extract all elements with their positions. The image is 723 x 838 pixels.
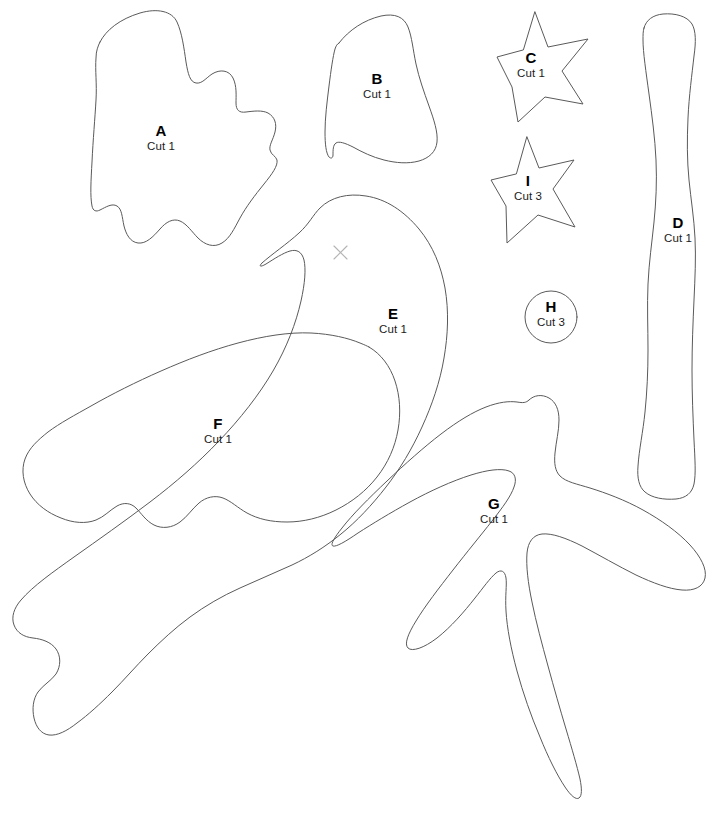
piece-cut-i: Cut 3 bbox=[514, 189, 542, 203]
piece-letter-e: E bbox=[379, 305, 407, 322]
piece-cut-d: Cut 1 bbox=[664, 231, 692, 245]
piece-outline-g bbox=[332, 396, 705, 799]
piece-letter-c: C bbox=[517, 49, 545, 66]
piece-label-d: D Cut 1 bbox=[664, 214, 692, 245]
piece-letter-b: B bbox=[363, 70, 391, 87]
piece-letter-i: I bbox=[514, 172, 542, 189]
piece-label-i: I Cut 3 bbox=[514, 172, 542, 203]
piece-letter-a: A bbox=[147, 122, 175, 139]
piece-cut-c: Cut 1 bbox=[517, 66, 545, 80]
piece-label-b: B Cut 1 bbox=[363, 70, 391, 101]
piece-letter-d: D bbox=[664, 214, 692, 231]
piece-letter-h: H bbox=[537, 298, 565, 315]
piece-cut-a: Cut 1 bbox=[147, 139, 175, 153]
piece-label-e: E Cut 1 bbox=[379, 305, 407, 336]
piece-letter-g: G bbox=[480, 495, 508, 512]
piece-cut-h: Cut 3 bbox=[537, 315, 565, 329]
piece-cut-f: Cut 1 bbox=[204, 432, 232, 446]
x-mark-icon bbox=[334, 246, 347, 259]
piece-label-c: C Cut 1 bbox=[517, 49, 545, 80]
pattern-sheet: A Cut 1 B Cut 1 C Cut 1 D Cut 1 E Cut 1 … bbox=[0, 0, 723, 838]
piece-outline-d bbox=[638, 14, 696, 499]
piece-label-g: G Cut 1 bbox=[480, 495, 508, 526]
piece-cut-e: Cut 1 bbox=[379, 322, 407, 336]
piece-outline-e bbox=[13, 195, 448, 735]
piece-cut-b: Cut 1 bbox=[363, 87, 391, 101]
piece-cut-g: Cut 1 bbox=[480, 512, 508, 526]
piece-label-h: H Cut 3 bbox=[537, 298, 565, 329]
piece-label-a: A Cut 1 bbox=[147, 122, 175, 153]
piece-label-f: F Cut 1 bbox=[204, 415, 232, 446]
pattern-outlines bbox=[0, 0, 723, 838]
piece-outline-a bbox=[91, 11, 277, 246]
piece-letter-f: F bbox=[204, 415, 232, 432]
